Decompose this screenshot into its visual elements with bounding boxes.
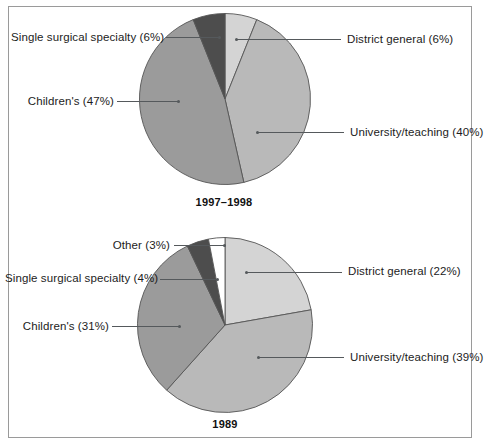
label-single-surgical-specialty-bottom: Single surgical specialty (4%) [5, 272, 157, 285]
caption-1989: 1989 [175, 418, 275, 430]
pie-bottom-graphic [136, 236, 314, 414]
leader-line-district-general-bottom [246, 272, 342, 273]
label-district-general-bottom: District general (22%) [348, 265, 461, 278]
leader-dot-district-general-bottom [245, 271, 248, 274]
leader-dot-other-bottom [223, 244, 226, 247]
leader-dot-children-bottom [178, 325, 181, 328]
label-children-bottom: Children's (31%) [11, 320, 109, 333]
label-other-bottom: Other (3%) [60, 239, 170, 252]
leader-dot-university-teaching-bottom [257, 356, 260, 359]
leader-line-single-surgical-bottom [160, 279, 218, 280]
label-university-teaching-bottom: University/teaching (39%) [350, 351, 484, 364]
leader-line-other-bottom [174, 245, 225, 246]
leader-line-children-bottom [112, 326, 180, 327]
leader-line-university-teaching-bottom [258, 357, 344, 358]
leader-dot-single-surgical-bottom [216, 278, 219, 281]
